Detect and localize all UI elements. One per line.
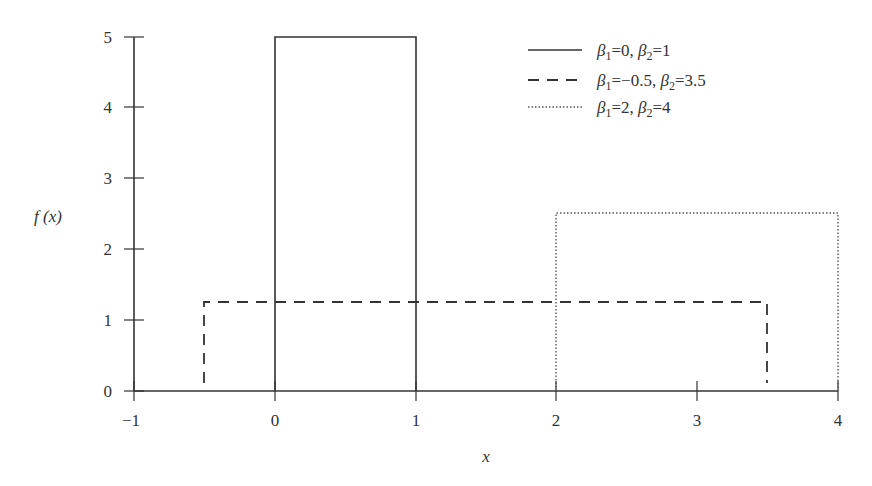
x-tick-label: 4: [834, 411, 843, 430]
y-tick-label: 4: [104, 98, 113, 117]
chart: 0 1 2 3 4 5 −1 0 1 2 3 4 x f (x) β1=0, β…: [0, 0, 872, 486]
y-tick-label: 5: [104, 28, 113, 47]
series-dashed: [204, 302, 767, 383]
y-tick-label: 2: [104, 240, 113, 259]
x-axis-title: x: [481, 447, 490, 466]
x-tick-label: 0: [271, 411, 280, 430]
y-tick-label: 0: [104, 382, 113, 401]
series-solid: [275, 37, 416, 391]
x-tick-label: 1: [412, 411, 421, 430]
x-tick-label: 3: [693, 411, 702, 430]
legend: β1=0, β2=1 β1=−0.5, β2=3.5 β1=2, β2=4: [528, 41, 706, 120]
legend-label: β1=0, β2=1: [596, 41, 671, 63]
x-tick-label: 2: [552, 411, 561, 430]
x-tick-label: −1: [122, 411, 140, 430]
y-tick-label: 1: [104, 311, 113, 330]
y-axis-title: f (x): [34, 207, 62, 226]
y-tick-label: 3: [104, 169, 113, 188]
legend-label: β1=2, β2=4: [596, 98, 671, 120]
legend-label: β1=−0.5, β2=3.5: [596, 71, 706, 93]
